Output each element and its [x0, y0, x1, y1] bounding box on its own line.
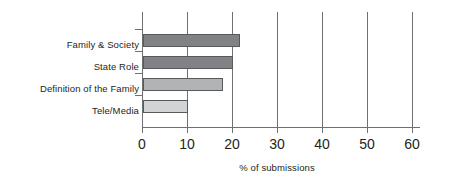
y-tick-2: [135, 73, 143, 74]
x-tick-50: [367, 128, 368, 133]
x-tick-10: [187, 128, 188, 133]
y-tick-3: [135, 95, 143, 96]
category-label-state-role: State Role: [94, 61, 139, 72]
bar-row-family-society: [143, 34, 240, 47]
bars-layer: [143, 12, 433, 127]
x-tick-label-50: 50: [347, 136, 387, 152]
category-label-definition-of-the-family: Definition of the Family: [40, 83, 139, 94]
x-tick-label-30: 30: [257, 136, 297, 152]
x-axis-line: [142, 127, 420, 128]
x-tick-30: [277, 128, 278, 133]
bar-chart: Family & Society State Role Definition o…: [0, 0, 449, 185]
x-tick-label-60: 60: [392, 136, 432, 152]
x-tick-20: [232, 128, 233, 133]
x-tick-0: [142, 128, 143, 133]
bar-row-tele-media: [143, 100, 188, 113]
bar-definition-of-the-family: [143, 78, 223, 91]
bar-state-role: [143, 56, 233, 69]
y-tick-0: [135, 29, 143, 30]
x-tick-40: [322, 128, 323, 133]
y-tick-1: [135, 51, 143, 52]
x-tick-60: [412, 128, 413, 133]
x-tick-label-10: 10: [167, 136, 207, 152]
x-tick-label-40: 40: [302, 136, 342, 152]
bar-row-definition-of-the-family: [143, 78, 223, 91]
x-tick-label-20: 20: [212, 136, 252, 152]
category-label-family-society: Family & Society: [67, 39, 139, 50]
bar-row-state-role: [143, 56, 233, 69]
bar-family-society: [143, 34, 240, 47]
x-tick-label-0: 0: [122, 136, 162, 152]
x-axis-title: % of submissions: [142, 162, 412, 174]
category-label-tele-media: Tele/Media: [92, 105, 139, 116]
bar-tele-media: [143, 100, 188, 113]
